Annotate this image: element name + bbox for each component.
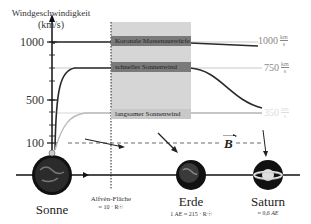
alfven-label: Alfvén-Fläche ≈ 10 · R☉	[81, 195, 141, 210]
value-350: 350	[264, 107, 279, 118]
label-350-kms: 350 kms	[264, 106, 289, 119]
alfven-name: Alfvén-Fläche	[81, 195, 141, 203]
label-750-kms: 750 kms	[264, 61, 289, 74]
y-axis-label-line1: Windgeschwindigkeit	[0, 8, 106, 19]
saturn-name: Saturn	[236, 194, 300, 210]
value-1000: 1000	[258, 35, 278, 46]
unit-kms: kms	[281, 106, 289, 119]
value-750: 750	[264, 62, 279, 73]
unit-kms: kms	[280, 34, 288, 47]
tick-1000: 1000	[4, 35, 44, 50]
unit-kms: kms	[281, 61, 289, 74]
earth-distance: 1 AE ≈ 215 · R☉	[156, 210, 226, 217]
magnetic-field-label: B	[222, 136, 235, 152]
sun-label: Sonne	[22, 202, 82, 218]
tick-500: 500	[4, 93, 44, 108]
y-axis-label-line2: (km/s)	[0, 19, 106, 30]
saturn-distance: ≈ 9,6 AE	[236, 210, 300, 216]
earth-name: Erde	[156, 194, 226, 210]
alfven-distance: ≈ 10 · R☉	[81, 203, 141, 210]
saturn-label: Saturn ≈ 9,6 AE	[236, 194, 300, 216]
band-fast-solar-wind: schneller Sonnenwind	[111, 62, 191, 72]
band-slow-solar-wind: langsamer Sonnenwind	[111, 109, 191, 119]
label-1000-kms: 1000 kms	[258, 34, 288, 47]
tick-100: 100	[4, 136, 44, 151]
y-axis-label: Windgeschwindigkeit (km/s)	[0, 8, 106, 30]
earth-label: Erde 1 AE ≈ 215 · R☉	[156, 194, 226, 217]
band-coronal-mass-ejections: Koronale Massenauswürfe	[111, 36, 191, 46]
